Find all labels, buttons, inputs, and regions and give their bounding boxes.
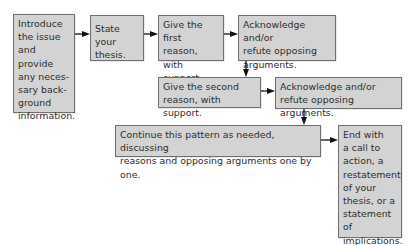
arrow-down-icon xyxy=(242,61,250,77)
node-refute-opposing-1: Acknowledge and/or refute opposing argum… xyxy=(238,15,336,61)
node-introduce-issue: Introduce the issue and provide any nece… xyxy=(13,14,75,113)
node-first-reason: Give the first reason, with support. xyxy=(158,15,224,61)
arrow-right-icon xyxy=(75,30,90,38)
node-second-reason: Give the second reason, with support. xyxy=(158,77,261,108)
arrow-right-icon xyxy=(261,87,275,95)
arrow-right-icon xyxy=(224,30,238,38)
node-refute-opposing-2: Acknowledge and/or refute opposing argum… xyxy=(275,77,402,109)
node-conclusion: End with a call to action, a restatement… xyxy=(338,125,402,238)
arrow-right-icon xyxy=(321,136,338,144)
node-state-thesis: State your thesis. xyxy=(90,15,144,61)
arrow-right-icon xyxy=(144,30,158,38)
node-continue-pattern: Continue this pattern as needed, discuss… xyxy=(115,125,321,157)
arrow-down-icon xyxy=(300,109,308,125)
